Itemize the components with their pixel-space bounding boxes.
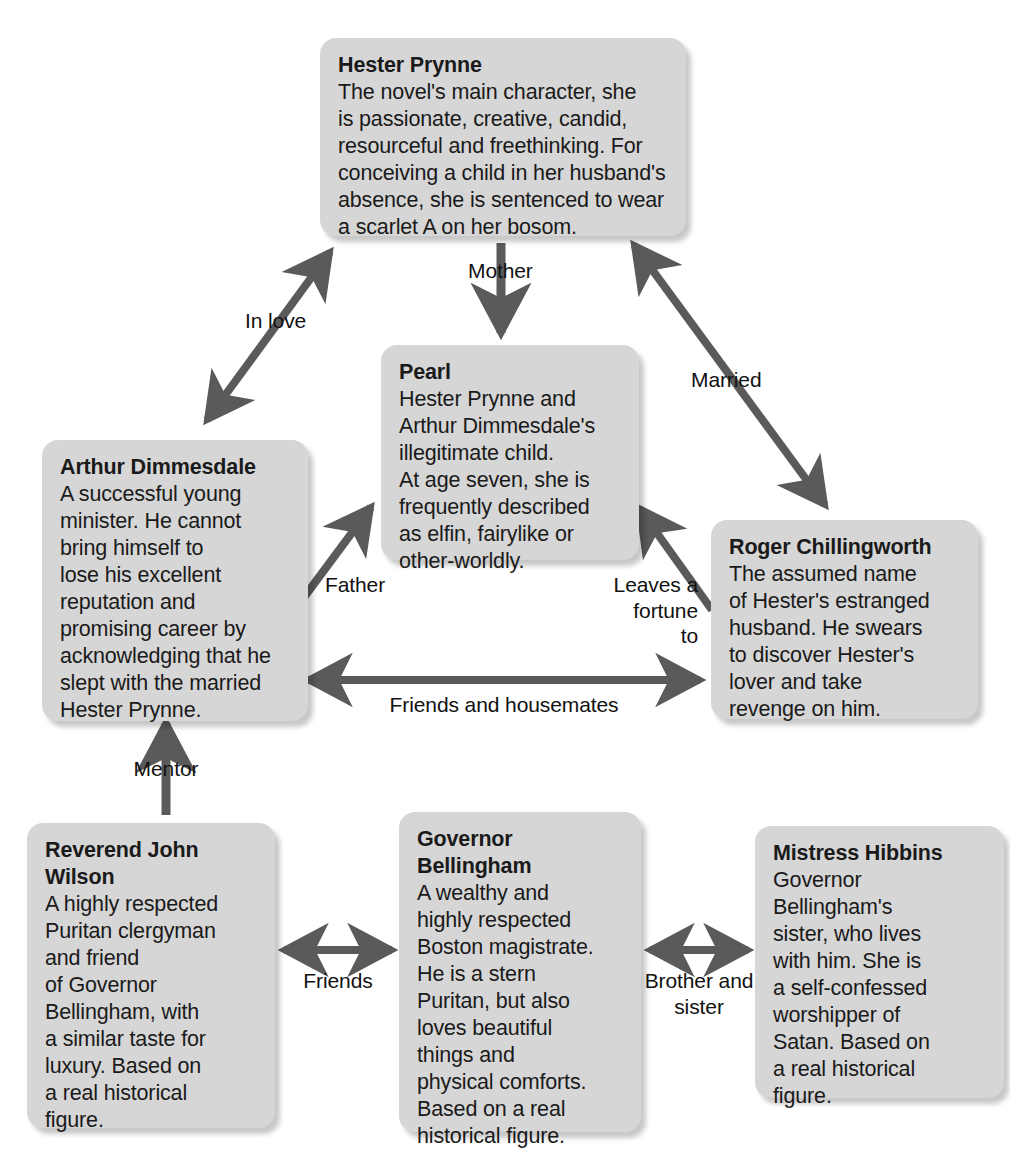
node-title: Roger Chillingworth [729,534,962,561]
node-arthur-dimmesdale[interactable]: Arthur Dimmesdale A successful young min… [42,440,308,721]
node-description: The novel's main character, she is passi… [338,79,670,241]
edge-in-love [207,252,330,420]
node-governor-bellingham[interactable]: Governor Bellingham A wealthy and highly… [399,812,641,1132]
node-title: Mistress Hibbins [773,840,988,867]
node-title: Hester Prynne [338,52,670,79]
edge-label-leaves-a-fortune-to: Leaves a fortune to [570,572,698,649]
edge-label-in-love: In love [245,308,306,334]
edge-label-friends-and-housemates: Friends and housemates [354,692,654,718]
node-hester-prynne[interactable]: Hester Prynne The novel's main character… [320,38,686,236]
node-mistress-hibbins[interactable]: Mistress Hibbins Governor Bellingham's s… [755,826,1004,1098]
node-title: Arthur Dimmesdale [60,454,292,481]
edge-label-brother-and-sister: Brother and sister [619,968,779,1019]
node-pearl[interactable]: Pearl Hester Prynne and Arthur Dimmesdal… [381,345,639,560]
node-description: A wealthy and highly respected Boston ma… [417,880,625,1150]
node-description: The assumed name of Hester's estranged h… [729,561,962,723]
edge-label-friends: Friends [278,968,398,994]
node-roger-chillingworth[interactable]: Roger Chillingworth The assumed name of … [711,520,978,719]
edge-label-married: Married [691,367,761,393]
node-title: Governor Bellingham [417,826,625,880]
node-title: Reverend John Wilson [45,837,259,891]
node-title: Pearl [399,359,623,386]
node-reverend-john-wilson[interactable]: Reverend John Wilson A highly respected … [27,823,275,1128]
edge-label-mother: Mother [468,258,533,284]
edge-label-mentor: Mentor [106,756,226,782]
character-relationship-diagram: Hester Prynne The novel's main character… [0,0,1010,1155]
edge-label-father: Father [325,572,385,598]
node-description: A successful young minister. He cannot b… [60,481,292,724]
node-description: A highly respected Puritan clergyman and… [45,891,259,1134]
node-description: Hester Prynne and Arthur Dimmesdale's il… [399,386,623,575]
node-description: Governor Bellingham's sister, who lives … [773,867,988,1110]
